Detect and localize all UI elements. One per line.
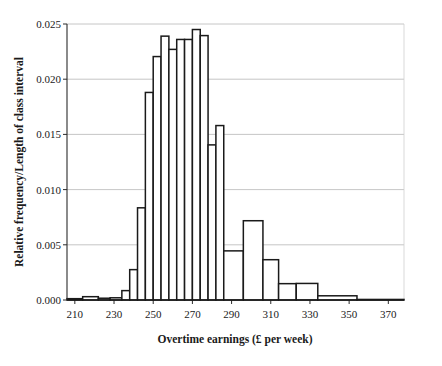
histogram-bar — [177, 39, 185, 300]
histogram-bar — [145, 92, 153, 300]
histogram-bar — [279, 284, 297, 300]
histogram-bar — [130, 270, 138, 300]
x-tick-label: 210 — [67, 308, 84, 320]
histogram-bar — [263, 260, 279, 300]
histogram-bar — [185, 39, 193, 300]
x-tick-label: 370 — [380, 308, 397, 320]
y-tick-label: 0.015 — [36, 128, 61, 140]
histogram-bar — [138, 208, 146, 300]
histogram-bar — [208, 145, 216, 300]
x-axis-tick-labels: 210230250270290310330350370 — [67, 308, 398, 320]
x-tick-label: 230 — [106, 308, 123, 320]
y-tick-label: 0.005 — [36, 239, 61, 251]
histogram-bar — [216, 126, 224, 300]
histogram-bar — [296, 283, 318, 300]
x-tick-label: 350 — [341, 308, 358, 320]
x-axis-title: Overtime earnings (£ per week) — [158, 333, 313, 346]
histogram-bar — [224, 251, 244, 300]
y-axis-title: Relative frequency/Length of class inter… — [13, 57, 26, 267]
histogram-bar — [161, 36, 169, 300]
histogram-bar — [122, 291, 130, 300]
y-tick-label: 0.010 — [36, 184, 61, 196]
histogram-bar — [169, 49, 177, 300]
histogram-bar — [153, 57, 161, 300]
x-tick-label: 290 — [223, 308, 240, 320]
x-tick-label: 330 — [302, 308, 319, 320]
histogram-bar — [200, 36, 208, 300]
histogram-bar — [192, 30, 200, 300]
histogram-bar — [243, 221, 263, 300]
chart-canvas: 0.0000.0050.0100.0150.0200.025 210230250… — [0, 0, 442, 366]
y-tick-label: 0.025 — [36, 18, 61, 30]
x-tick-label: 310 — [263, 308, 280, 320]
y-tick-label: 0.020 — [36, 73, 61, 85]
y-tick-label: 0.000 — [36, 294, 61, 306]
x-tick-label: 270 — [184, 308, 201, 320]
x-tick-label: 250 — [145, 308, 162, 320]
histogram-figure: 0.0000.0050.0100.0150.0200.025 210230250… — [0, 0, 442, 366]
